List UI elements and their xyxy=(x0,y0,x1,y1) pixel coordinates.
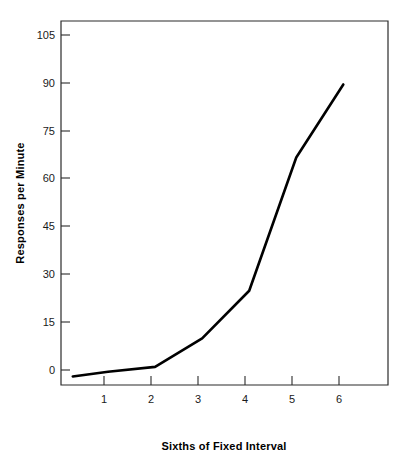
y-tick-label-15: 15 xyxy=(43,316,55,328)
y-tick-label-105: 105 xyxy=(37,29,55,41)
x-tick-label-3: 3 xyxy=(195,393,201,405)
line-chart: 105 90 75 60 45 30 15 0 1 2 3 4 5 6 xyxy=(0,0,408,474)
chart-figure: 105 90 75 60 45 30 15 0 1 2 3 4 5 6 xyxy=(0,0,408,474)
y-tick-label-75: 75 xyxy=(43,125,55,137)
y-axis-ticks xyxy=(61,35,70,370)
y-tick-label-30: 30 xyxy=(43,268,55,280)
y-axis-title: Responses per Minute xyxy=(14,142,26,263)
y-tick-label-45: 45 xyxy=(43,220,55,232)
x-axis-title: Sixths of Fixed Interval xyxy=(161,440,286,452)
y-tick-label-60: 60 xyxy=(43,172,55,184)
x-tick-label-5: 5 xyxy=(289,393,295,405)
x-axis-tick-labels: 1 2 3 4 5 6 xyxy=(101,393,342,405)
x-tick-label-6: 6 xyxy=(336,393,342,405)
x-axis-ticks xyxy=(104,376,339,385)
x-tick-label-4: 4 xyxy=(242,393,248,405)
data-series-responses-per-minute xyxy=(73,84,344,376)
y-axis-tick-labels: 105 90 75 60 45 30 15 0 xyxy=(37,29,55,376)
x-tick-label-2: 2 xyxy=(148,393,154,405)
x-tick-label-1: 1 xyxy=(101,393,107,405)
y-tick-label-0: 0 xyxy=(49,364,55,376)
y-tick-label-90: 90 xyxy=(43,77,55,89)
plot-frame xyxy=(61,21,388,385)
